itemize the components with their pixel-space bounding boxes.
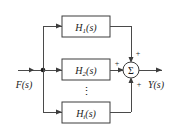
sigma-glyph: Σ: [128, 65, 134, 76]
output-wire: [139, 68, 162, 73]
sign-top-plus: +: [136, 49, 141, 58]
branch-wire-2: [43, 68, 62, 73]
branch-wire-1: [43, 24, 62, 29]
sum-wire-bottom: [110, 77, 134, 112]
sum-wire-top: [110, 26, 134, 63]
sum-wire-left: [110, 68, 124, 73]
block-diagram-canvas: H1(s) H2(s) ⋮ Hi(s): [0, 0, 177, 136]
sign-bottom-plus: +: [137, 80, 142, 89]
block-hi[interactable]: Hi(s): [62, 102, 110, 123]
sign-left-plus: +: [115, 59, 120, 68]
block-diagram-figure: H1(s) H2(s) ⋮ Hi(s): [0, 0, 177, 136]
input-label: F(s): [15, 79, 33, 91]
branch-wire-3: [43, 110, 62, 115]
vertical-ellipsis: ⋮: [81, 85, 92, 97]
block-h1[interactable]: H1(s): [62, 16, 110, 37]
input-wire: [18, 68, 43, 73]
output-label: Y(s): [148, 79, 165, 91]
summing-junction[interactable]: Σ: [123, 62, 139, 78]
block-h2[interactable]: H2(s): [62, 59, 110, 80]
